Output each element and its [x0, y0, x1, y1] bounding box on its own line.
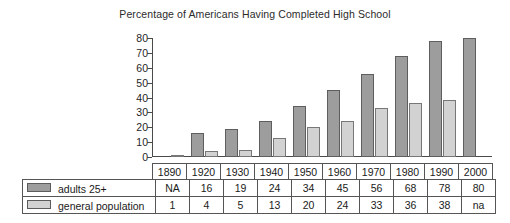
bar-group-1960	[323, 38, 357, 157]
bar-group-1970	[357, 38, 391, 157]
legend-label: adults 25+	[58, 183, 107, 195]
value-cell-2000: 80	[462, 180, 496, 197]
bar-general-population-1930	[239, 150, 252, 157]
value-cell-1940: 13	[258, 197, 292, 214]
y-tick-label: 0	[112, 152, 148, 162]
dark-gray-swatch-icon	[27, 183, 51, 192]
value-cell-1940: 24	[258, 180, 292, 197]
value-cell-1930: 19	[224, 180, 258, 197]
y-tick-label: 60	[112, 63, 148, 73]
y-tick-label: 80	[112, 33, 148, 43]
year-cell-1940: 1940	[255, 164, 289, 180]
table-row: general population145132024333638na	[23, 197, 496, 214]
value-cell-1960: 45	[326, 180, 360, 197]
y-tick-label: 10	[112, 137, 148, 147]
bar-general-population-1970	[375, 108, 388, 157]
value-cell-1970: 56	[360, 180, 394, 197]
y-tick-mark	[147, 142, 152, 143]
year-cell-1970: 1970	[357, 164, 391, 180]
value-cell-1990: 78	[428, 180, 462, 197]
y-tick-mark	[147, 83, 152, 84]
year-header-table: 1890192019301940195019601970198019902000	[152, 163, 493, 180]
value-cell-1960: 24	[326, 197, 360, 214]
bar-adults-25--2000	[463, 38, 476, 157]
year-cell-1890: 1890	[153, 164, 187, 180]
light-gray-swatch-icon	[27, 200, 51, 209]
y-tick-mark	[147, 127, 152, 128]
bar-group-1990	[425, 38, 459, 157]
value-cell-1950: 34	[292, 180, 326, 197]
y-tick-mark	[147, 157, 152, 158]
bar-general-population-1940	[273, 138, 286, 157]
year-cell-1990: 1990	[425, 164, 459, 180]
legend-label: general population	[58, 200, 144, 212]
bar-group-1890	[153, 38, 187, 157]
value-cell-1980: 36	[394, 197, 428, 214]
y-tick-label: 50	[112, 78, 148, 88]
bar-general-population-1950	[307, 127, 320, 157]
value-cell-1890: 1	[156, 197, 190, 214]
bar-general-population-1890	[171, 155, 184, 157]
y-tick-label: 70	[112, 48, 148, 58]
legend-cell: adults 25+	[23, 180, 156, 197]
value-cell-1920: 16	[190, 180, 224, 197]
table-row: adults 25+NA161924344556687880	[23, 180, 496, 197]
legend-cell: general population	[23, 197, 156, 214]
y-tick-mark	[147, 98, 152, 99]
value-cell-1990: 38	[428, 197, 462, 214]
table-row-years: 1890192019301940195019601970198019902000	[153, 164, 493, 180]
y-tick-label: 20	[112, 122, 148, 132]
chart-page: Percentage of Americans Having Completed…	[0, 0, 510, 223]
y-tick-mark	[147, 112, 152, 113]
bar-adults-25--1930	[225, 129, 238, 157]
y-tick-label: 40	[112, 93, 148, 103]
plot-area: 80706050403020100	[112, 33, 496, 163]
bar-adults-25--1940	[259, 121, 272, 157]
bar-adults-25--1990	[429, 41, 442, 157]
bar-adults-25--1920	[191, 133, 204, 157]
y-tick-label: 30	[112, 107, 148, 117]
year-cell-1930: 1930	[221, 164, 255, 180]
bar-adults-25--1950	[293, 106, 306, 157]
bar-adults-25--1960	[327, 90, 340, 157]
bars-container	[153, 38, 493, 157]
y-tick-mark	[147, 68, 152, 69]
bar-group-1920	[187, 38, 221, 157]
y-tick-mark	[147, 53, 152, 54]
bar-group-1950	[289, 38, 323, 157]
value-cell-1920: 4	[190, 197, 224, 214]
year-cell-1920: 1920	[187, 164, 221, 180]
year-cell-2000: 2000	[459, 164, 493, 180]
bar-general-population-1980	[409, 103, 422, 157]
bar-general-population-1990	[443, 100, 456, 157]
year-cell-1980: 1980	[391, 164, 425, 180]
bar-group-1980	[391, 38, 425, 157]
value-cell-2000: na	[462, 197, 496, 214]
value-cell-1930: 5	[224, 197, 258, 214]
value-cell-1980: 68	[394, 180, 428, 197]
year-cell-1960: 1960	[323, 164, 357, 180]
page-title: Percentage of Americans Having Completed…	[0, 8, 510, 20]
y-axis: 80706050403020100	[112, 33, 148, 158]
bar-general-population-1960	[341, 121, 354, 157]
bar-general-population-1920	[205, 151, 218, 157]
value-cell-1970: 33	[360, 197, 394, 214]
data-values-table: adults 25+NA161924344556687880general po…	[22, 179, 496, 214]
bar-adults-25--1980	[395, 56, 408, 157]
bar-group-1940	[255, 38, 289, 157]
year-cell-1950: 1950	[289, 164, 323, 180]
bar-group-1930	[221, 38, 255, 157]
y-tick-mark	[147, 38, 152, 39]
bar-group-2000	[459, 38, 493, 157]
value-cell-1950: 20	[292, 197, 326, 214]
value-cell-1890: NA	[156, 180, 190, 197]
bar-adults-25--1970	[361, 74, 374, 157]
